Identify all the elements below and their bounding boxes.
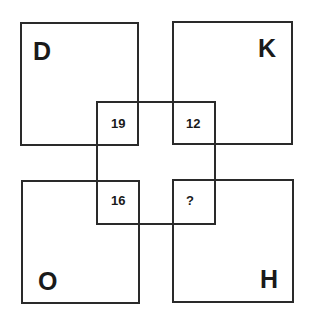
letter-top-left: D	[33, 39, 51, 64]
letter-bottom-right: H	[260, 267, 278, 292]
unknown-value-question-mark: ?	[186, 194, 194, 207]
letter-top-right: K	[258, 36, 276, 61]
number-bottom-left: 16	[111, 194, 125, 207]
letter-bottom-left: O	[38, 269, 57, 294]
number-top-right: 12	[186, 117, 200, 130]
number-top-left: 19	[111, 117, 125, 130]
